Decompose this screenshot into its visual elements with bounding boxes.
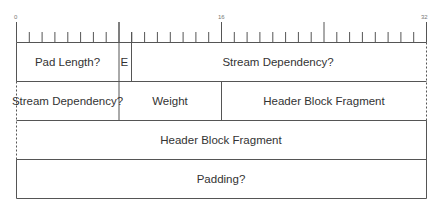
field-stream-dependency-cont: Stream Dependency?: [12, 95, 123, 107]
field-stream-dependency: Stream Dependency?: [222, 56, 333, 68]
bit-label-0: 0: [14, 14, 18, 20]
field-weight: Weight: [152, 95, 188, 107]
packet-diagram: 0 16 32 Pad Length? E Stream Dependency?…: [0, 0, 440, 208]
field-header-block-fragment-cont: Header Block Fragment: [160, 134, 282, 146]
bit-label-16: 16: [218, 14, 225, 20]
field-header-block-fragment: Header Block Fragment: [263, 95, 385, 107]
field-pad-length: Pad Length?: [35, 56, 100, 68]
field-padding: Padding?: [197, 173, 246, 185]
bit-ruler: [17, 22, 427, 43]
ruler-ticks: [17, 22, 427, 43]
field-e-flag: E: [121, 56, 129, 68]
bit-label-32: 32: [421, 14, 428, 20]
